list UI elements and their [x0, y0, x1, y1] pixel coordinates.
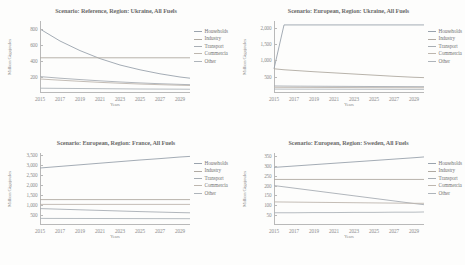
x-axis-tick-label: 2029	[409, 96, 419, 102]
legend-label: Households	[439, 160, 463, 167]
chart-legend: HouseholdsIndustryTransportCommerciaOthe…	[428, 160, 462, 197]
y-axis-tick-label: 1,500	[261, 41, 274, 47]
legend-color-swatch-icon	[194, 31, 202, 32]
legend-color-swatch-icon	[428, 185, 436, 186]
series-line	[274, 69, 424, 78]
chart-legend: HouseholdsIndustryTransportCommerciaOthe…	[428, 28, 462, 65]
plot-wrap: 2004006008002015201720192021202320252027…	[40, 21, 190, 93]
x-axis-title: Years	[110, 102, 120, 107]
y-axis-tick-label: 600	[30, 42, 40, 48]
legend-color-swatch-icon	[428, 61, 436, 62]
legend-label: Industry	[205, 35, 222, 42]
legend-label: Commercia	[205, 182, 228, 189]
x-axis-tick-label: 2027	[155, 96, 165, 102]
legend-label: Households	[205, 160, 229, 167]
y-axis-tick-label: 3,000	[27, 162, 40, 168]
x-axis-tick-label: 2021	[329, 228, 339, 234]
x-axis-title: Years	[110, 234, 120, 239]
x-axis-tick-label: 2017	[55, 228, 65, 234]
y-axis-tick-label: 200	[264, 183, 274, 189]
x-axis-tick-label: 2021	[329, 96, 339, 102]
x-axis-title: Years	[344, 102, 354, 107]
legend-color-swatch-icon	[428, 53, 436, 54]
legend-color-swatch-icon	[194, 46, 202, 47]
legend-item[interactable]: Commercia	[194, 182, 228, 189]
legend-item[interactable]: Transport	[428, 175, 462, 182]
legend-color-swatch-icon	[194, 61, 202, 62]
legend-label: Other	[439, 190, 450, 197]
y-axis-tick-label: 2,000	[27, 182, 40, 188]
legend-label: Transport	[439, 175, 458, 182]
chart-title: Scenario: European, Region: Ukraine, All…	[232, 7, 465, 14]
legend-color-swatch-icon	[194, 193, 202, 194]
legend-color-swatch-icon	[428, 171, 436, 172]
x-axis-tick-label: 2015	[35, 96, 45, 102]
legend-item[interactable]: Transport	[194, 175, 228, 182]
series-line	[40, 79, 190, 85]
series-lines	[274, 153, 424, 225]
legend-label: Transport	[439, 43, 458, 50]
chart-title: Scenario: European, Region: Sweden, All …	[232, 139, 465, 146]
legend-item[interactable]: Industry	[428, 35, 462, 42]
y-axis-tick-label: 2,000	[261, 25, 274, 31]
legend-label: Households	[205, 28, 229, 35]
legend-item[interactable]: Households	[194, 28, 228, 35]
series-line	[40, 29, 190, 78]
plot-wrap: 5010015020025030035020152017201920212023…	[274, 153, 424, 225]
legend-label: Commercia	[439, 182, 462, 189]
legend-item[interactable]: Other	[194, 58, 228, 65]
legend-item[interactable]: Households	[428, 160, 462, 167]
x-axis-tick-label: 2017	[289, 228, 299, 234]
chart-panel-european-sweden: Scenario: European, Region: Sweden, All …	[232, 132, 465, 265]
x-axis-tick-label: 2029	[175, 96, 185, 102]
legend-item[interactable]: Industry	[428, 167, 462, 174]
plot-wrap: 5001,0001,5002,0002015201720192021202320…	[274, 21, 424, 93]
legend-item[interactable]: Households	[194, 160, 228, 167]
x-axis-tick-label: 2025	[135, 96, 145, 102]
legend-color-swatch-icon	[194, 178, 202, 179]
x-axis-tick-label: 2029	[409, 228, 419, 234]
chart-legend: HouseholdsIndustryTransportCommerciaOthe…	[194, 160, 228, 197]
legend-item[interactable]: Industry	[194, 35, 228, 42]
x-axis-tick-label: 2029	[175, 228, 185, 234]
x-axis-tick-label: 2019	[75, 96, 85, 102]
series-line	[274, 157, 424, 167]
legend-item[interactable]: Other	[428, 190, 462, 197]
legend-label: Commercia	[439, 50, 462, 57]
legend-item[interactable]: Transport	[194, 43, 228, 50]
y-axis-tick-label: 500	[30, 212, 40, 218]
legend-color-swatch-icon	[194, 163, 202, 164]
legend-label: Industry	[439, 35, 456, 42]
y-axis-tick-label: 50	[267, 212, 274, 218]
x-axis-tick-label: 2015	[269, 228, 279, 234]
legend-color-swatch-icon	[428, 178, 436, 179]
y-axis-tick-label: 1,000	[261, 57, 274, 63]
series-line	[274, 25, 424, 69]
x-axis-tick-label: 2017	[55, 96, 65, 102]
chart-legend: HouseholdsIndustryTransportCommerciaOthe…	[194, 28, 228, 65]
legend-item[interactable]: Commercia	[194, 50, 228, 57]
y-axis-tick-label: 2,500	[27, 172, 40, 178]
y-axis-title: Million Gigajoules	[4, 153, 14, 225]
legend-item[interactable]: Industry	[194, 167, 228, 174]
y-axis-title: Million Gigajoules	[4, 21, 14, 93]
y-axis-tick-label: 250	[264, 173, 274, 179]
legend-label: Households	[439, 28, 463, 35]
series-lines	[40, 153, 190, 225]
legend-item[interactable]: Transport	[428, 43, 462, 50]
x-axis-tick-label: 2027	[155, 228, 165, 234]
y-axis-tick-label: 1,500	[27, 192, 40, 198]
legend-item[interactable]: Other	[428, 58, 462, 65]
series-lines	[274, 21, 424, 93]
legend-item[interactable]: Other	[194, 190, 228, 197]
y-axis-tick-label: 200	[30, 74, 40, 80]
y-axis-title: Million Gigajoules	[239, 153, 249, 225]
legend-item[interactable]: Households	[428, 28, 462, 35]
legend-color-swatch-icon	[428, 39, 436, 40]
legend-label: Transport	[205, 175, 224, 182]
x-axis-tick-label: 2015	[269, 96, 279, 102]
chart-panel-european-ukraine: Scenario: European, Region: Ukraine, All…	[232, 0, 465, 132]
legend-color-swatch-icon	[194, 171, 202, 172]
legend-item[interactable]: Commercia	[428, 182, 462, 189]
legend-item[interactable]: Commercia	[428, 50, 462, 57]
